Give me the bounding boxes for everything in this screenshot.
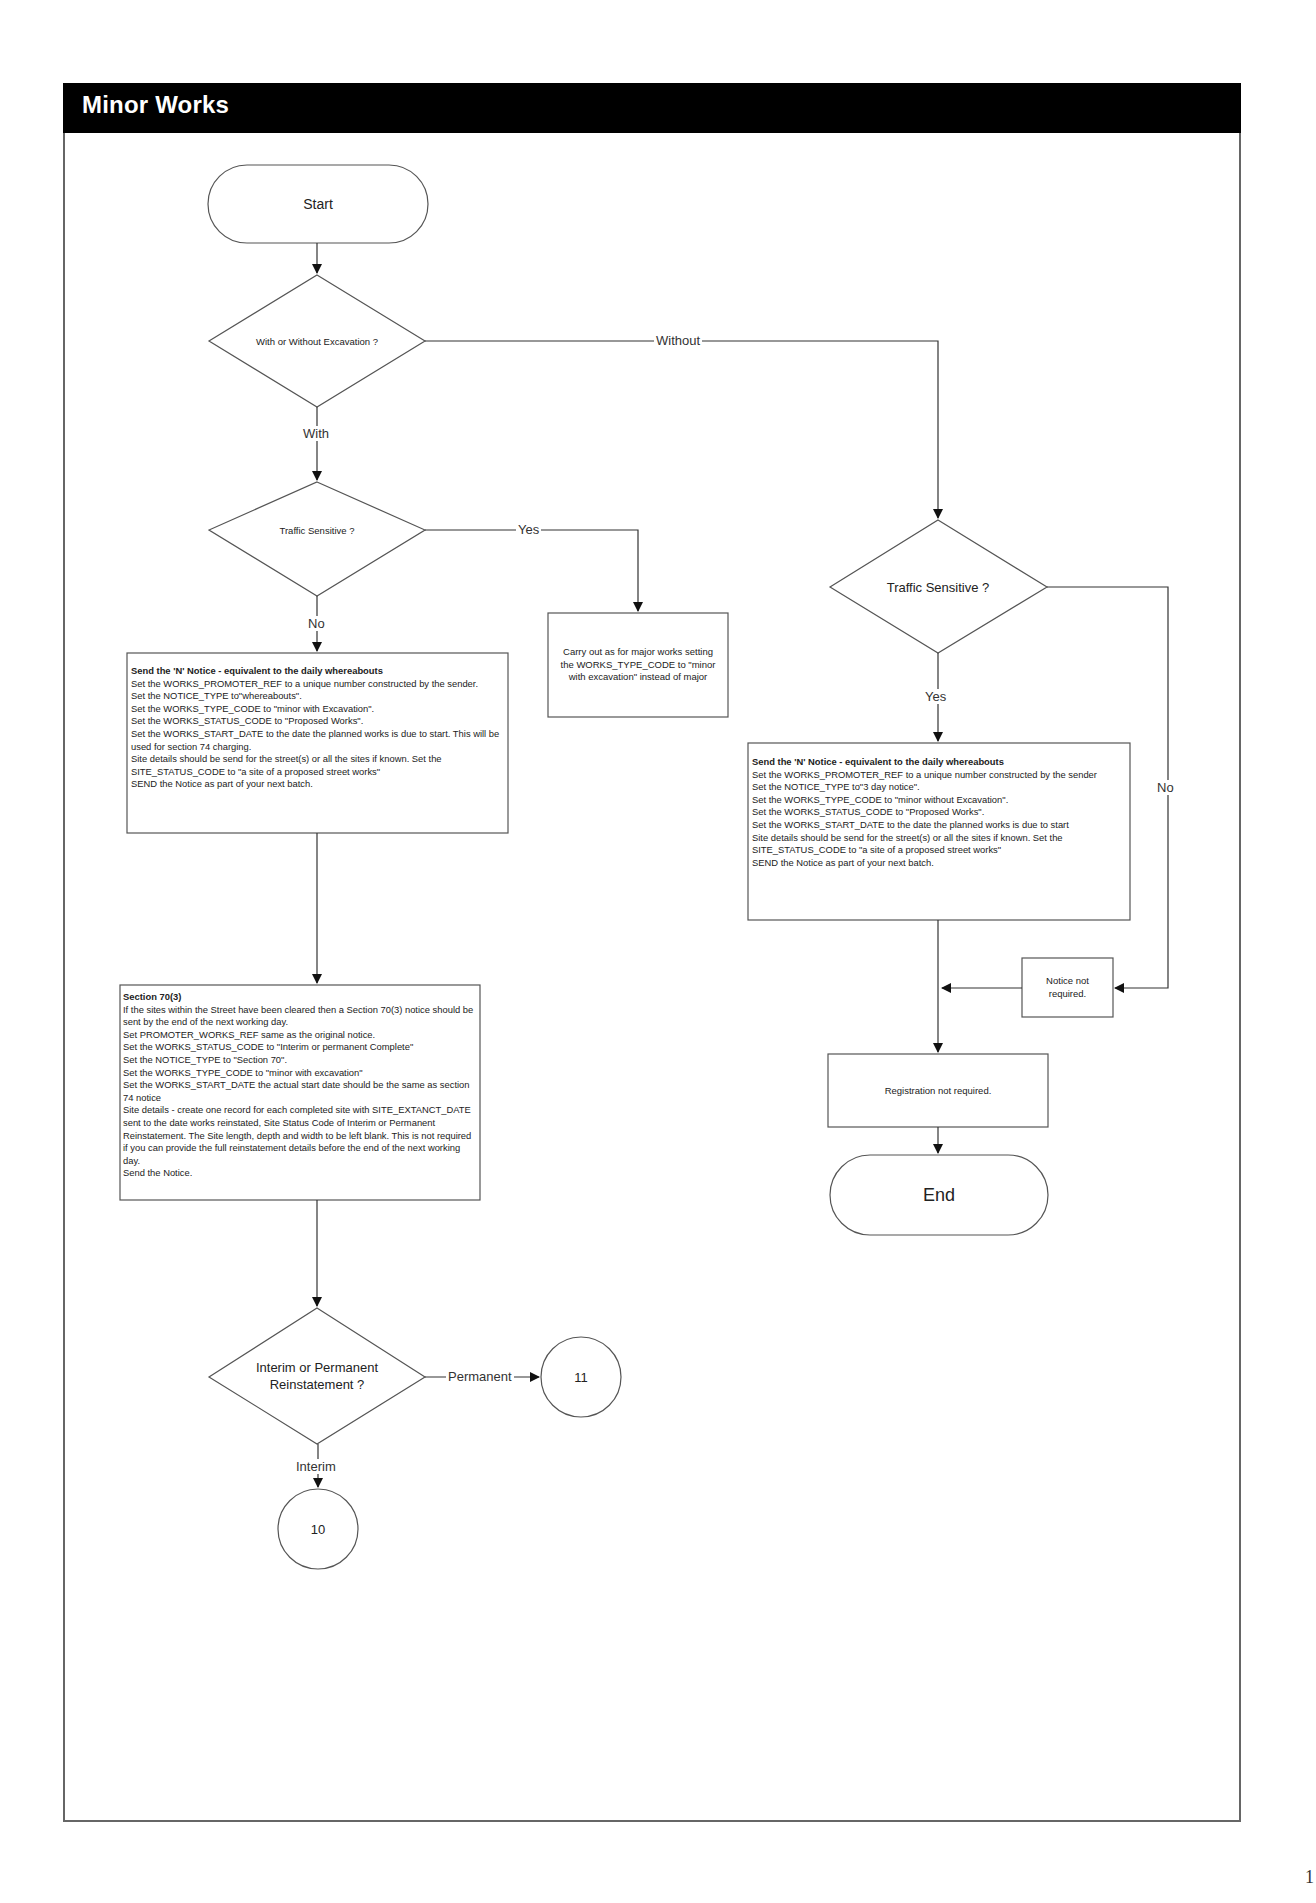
n-notice-with-line: Set the WORKS_START_DATE to the date the…	[131, 728, 505, 753]
n-notice-without-line: Set the WORKS_TYPE_CODE to "minor withou…	[752, 794, 1126, 807]
section-70-line: Site details - create one record for eac…	[123, 1104, 477, 1167]
edge-label-with: With	[301, 426, 331, 441]
n-notice-without-line: Site details should be send for the stre…	[752, 832, 1126, 857]
n-notice-with-line: Site details should be send for the stre…	[131, 753, 505, 778]
n-notice-with-line: SEND the Notice as part of your next bat…	[131, 778, 505, 791]
decision-reinstatement-label: Interim or Permanent Reinstatement ?	[242, 1356, 392, 1396]
connector-10-label: 10	[278, 1489, 358, 1569]
section-70-line: Send the Notice.	[123, 1167, 477, 1180]
n-notice-with-text: Send the 'N' Notice - equivalent to the …	[131, 665, 505, 791]
n-notice-without-line: Set the NOTICE_TYPE to"3 day notice".	[752, 781, 1126, 794]
edge-label-no-left: No	[306, 616, 327, 631]
n-notice-without-line: Set the WORKS_START_DATE to the date the…	[752, 819, 1126, 832]
edge-label-no-right: No	[1155, 780, 1176, 795]
end-label: End	[830, 1155, 1048, 1235]
flowchart-canvas	[0, 0, 1316, 1903]
n-notice-with-line: Set the WORKS_STATUS_CODE to "Proposed W…	[131, 715, 505, 728]
notice-not-required-text: Notice not required.	[1024, 960, 1111, 1015]
n-notice-without-line: SEND the Notice as part of your next bat…	[752, 857, 1126, 870]
n-notice-without-text: Send the 'N' Notice - equivalent to the …	[752, 756, 1126, 869]
n-notice-without-title: Send the 'N' Notice - equivalent to the …	[752, 756, 1126, 769]
edge-label-without: Without	[654, 333, 702, 348]
decision-traffic-without-label: Traffic Sensitive ?	[856, 576, 1020, 598]
edge-label-yes-left: Yes	[516, 522, 541, 537]
n-notice-with-title: Send the 'N' Notice - equivalent to the …	[131, 665, 505, 678]
section-70-line: Set the WORKS_STATUS_CODE to "Interim or…	[123, 1041, 477, 1054]
section-70-line: Set the WORKS_TYPE_CODE to "minor with e…	[123, 1067, 477, 1080]
n-notice-without-line: Set the WORKS_STATUS_CODE to "Proposed W…	[752, 806, 1126, 819]
section-70-line: If the sites within the Street have been…	[123, 1004, 477, 1029]
section-70-text: Section 70(3) If the sites within the St…	[123, 991, 477, 1180]
n-notice-with-line: Set the NOTICE_TYPE to"whereabouts".	[131, 690, 505, 703]
edge-label-permanent: Permanent	[446, 1369, 514, 1384]
section-70-line: Set PROMOTER_WORKS_REF same as the origi…	[123, 1029, 477, 1042]
section-70-line: Set the WORKS_START_DATE the actual star…	[123, 1079, 477, 1104]
start-label: Start	[208, 165, 428, 243]
decision-traffic-with-label: Traffic Sensitive ?	[250, 519, 384, 541]
section-70-line: Set the NOTICE_TYPE to "Section 70".	[123, 1054, 477, 1067]
major-works-text: Carry out as for major works setting the…	[552, 617, 724, 713]
n-notice-without-line: Set the WORKS_PROMOTER_REF to a unique n…	[752, 769, 1126, 782]
section-70-title: Section 70(3)	[123, 991, 477, 1004]
edge-label-interim: Interim	[294, 1459, 338, 1474]
n-notice-with-line: Set the WORKS_TYPE_CODE to "minor with E…	[131, 703, 505, 716]
decision-excavation-label: With or Without Excavation ?	[230, 330, 404, 352]
page-number: 1	[1305, 1867, 1314, 1888]
edge-label-yes-right: Yes	[923, 689, 948, 704]
connector-11-label: 11	[541, 1337, 621, 1417]
n-notice-with-line: Set the WORKS_PROMOTER_REF to a unique n…	[131, 678, 505, 691]
registration-not-required-text: Registration not required.	[830, 1056, 1046, 1125]
